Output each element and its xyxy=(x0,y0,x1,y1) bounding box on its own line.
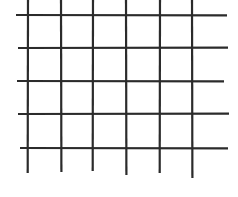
grid-drawing xyxy=(0,0,238,197)
vertical-lines-group xyxy=(28,0,193,178)
grid-diagram xyxy=(0,0,238,197)
horizontal-lines-group xyxy=(16,15,229,148)
